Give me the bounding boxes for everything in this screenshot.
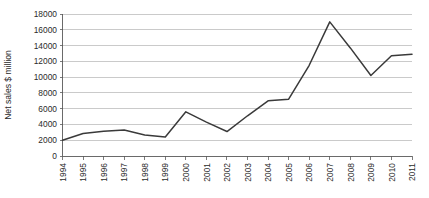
x-tick-label: 2006 bbox=[304, 163, 314, 182]
x-tick-label: 1996 bbox=[99, 163, 109, 182]
x-tick-label: 1998 bbox=[140, 163, 150, 182]
axes-group bbox=[63, 14, 413, 156]
y-tick-label: 16000 bbox=[34, 25, 58, 35]
x-tick-label: 2004 bbox=[263, 163, 273, 182]
x-tick-label: 1994 bbox=[58, 163, 68, 182]
chart-canvas: 0200040006000800010000120001400016000180… bbox=[0, 0, 429, 198]
y-tick-label: 8000 bbox=[38, 88, 57, 98]
x-tick-label: 2003 bbox=[243, 163, 253, 182]
x-tick-label: 2000 bbox=[181, 163, 191, 182]
x-tick-label: 2005 bbox=[284, 163, 294, 182]
y-axis-title: Net sales $ million bbox=[3, 50, 13, 120]
line-chart-figure: 0200040006000800010000120001400016000180… bbox=[0, 0, 429, 198]
x-tick-label: 2008 bbox=[346, 163, 356, 182]
x-tick-label: 2009 bbox=[366, 163, 376, 182]
x-tick-label: 1995 bbox=[78, 163, 88, 182]
y-tick-label: 14000 bbox=[34, 41, 58, 51]
x-tick-label: 2011 bbox=[407, 163, 417, 181]
x-tick-label: 2007 bbox=[325, 163, 335, 182]
x-tick-label: 2002 bbox=[222, 163, 232, 182]
y-tick-label: 4000 bbox=[38, 119, 57, 129]
gridlines-group bbox=[63, 14, 413, 140]
y-tick-label: 2000 bbox=[38, 135, 57, 145]
y-axis-ticks-group: 0200040006000800010000120001400016000180… bbox=[34, 9, 63, 161]
y-tick-label: 0 bbox=[52, 151, 57, 161]
x-axis-ticks-group: 1994199519961997199819992000200120022003… bbox=[58, 156, 418, 182]
y-tick-label: 10000 bbox=[34, 72, 58, 82]
x-tick-label: 1999 bbox=[160, 163, 170, 182]
x-tick-label: 2001 bbox=[202, 163, 212, 182]
y-tick-label: 6000 bbox=[38, 104, 57, 114]
x-tick-label: 2010 bbox=[387, 163, 397, 182]
y-tick-label: 12000 bbox=[34, 56, 58, 66]
y-tick-label: 18000 bbox=[34, 9, 58, 19]
x-tick-label: 1997 bbox=[119, 163, 129, 182]
data-series-line bbox=[63, 22, 413, 140]
